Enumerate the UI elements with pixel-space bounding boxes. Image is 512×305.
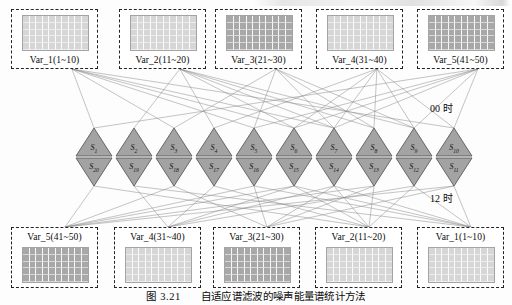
connection-line xyxy=(180,69,374,128)
connection-line xyxy=(369,186,374,227)
variable-box: Var_1(1~10) xyxy=(417,227,504,288)
state-triangle: S13 xyxy=(356,158,392,186)
connection-line xyxy=(377,69,454,128)
state-index: 8 xyxy=(375,147,378,153)
grid-cell xyxy=(185,275,192,282)
state-triangle: S4 xyxy=(196,128,232,156)
spectrum-energy-grid xyxy=(130,15,197,51)
grid-cell xyxy=(82,262,89,269)
grid-cell xyxy=(386,268,393,275)
connection-line xyxy=(174,69,276,128)
grid-cell xyxy=(185,268,192,275)
state-triangle-label: S19 xyxy=(116,162,152,173)
variable-box-label: Var_3(21~30) xyxy=(216,55,301,65)
connection-line xyxy=(72,69,94,128)
spectrum-energy-grid xyxy=(428,247,495,283)
connection-line xyxy=(65,186,254,227)
state-triangle: S5 xyxy=(236,128,272,156)
grid-cell xyxy=(284,268,291,275)
state-triangle: S12 xyxy=(396,158,432,186)
state-triangle: S1 xyxy=(76,128,112,156)
grid-cell xyxy=(185,255,192,262)
connection-line xyxy=(180,69,414,128)
grid-cell xyxy=(387,16,394,23)
connection-line xyxy=(168,186,334,227)
connection-line xyxy=(134,186,471,227)
state-triangle-label: S17 xyxy=(196,162,232,173)
variable-box-label: Var_5(41~50) xyxy=(12,232,97,242)
grid-cell xyxy=(286,30,293,37)
connection-line xyxy=(276,69,414,128)
state-index: 12 xyxy=(413,167,419,173)
variable-box: Var_5(41~50) xyxy=(417,9,504,69)
grid-cell xyxy=(386,248,393,255)
state-triangle: S2 xyxy=(116,128,152,156)
grid-cell xyxy=(488,30,495,37)
grid-cell xyxy=(82,43,89,50)
state-index: 9 xyxy=(415,147,418,153)
grid-cell xyxy=(488,268,495,275)
grid-cell xyxy=(488,275,495,282)
figure-caption: 图 3.21 自适应谱滤波的噪声能量谱统计方法 xyxy=(0,288,512,303)
state-triangle-label: S13 xyxy=(356,162,392,173)
state-triangle-label: S1 xyxy=(76,143,112,154)
state-triangle: S19 xyxy=(116,158,152,186)
state-triangle-label: S14 xyxy=(316,162,352,173)
state-index: 20 xyxy=(93,167,99,173)
grid-cell xyxy=(488,248,495,255)
connection-line xyxy=(134,69,180,128)
connection-line xyxy=(254,69,478,128)
spectrum-energy-grid xyxy=(224,247,291,283)
state-index: 11 xyxy=(453,167,458,173)
connection-line xyxy=(276,69,374,128)
state-index: 5 xyxy=(255,147,258,153)
connection-line xyxy=(180,69,294,128)
state-triangle-label: S8 xyxy=(356,143,392,154)
state-triangle-label: S4 xyxy=(196,143,232,154)
state-triangle: S16 xyxy=(236,158,272,186)
connection-line xyxy=(369,186,414,227)
connection-line xyxy=(334,69,377,128)
figure-canvas: Var_1(1~10)Var_2(11~20)Var_3(21~30)Var_4… xyxy=(0,0,512,305)
grid-cell xyxy=(82,275,89,282)
connection-line xyxy=(180,69,214,128)
grid-cell xyxy=(387,30,394,37)
grid-cell xyxy=(488,43,495,50)
variable-box-label: Var_3(21~30) xyxy=(214,232,299,242)
variable-box: Var_2(11~20) xyxy=(315,227,402,288)
variable-box: Var_5(41~50) xyxy=(11,227,98,288)
state-triangle-label: S16 xyxy=(236,162,272,173)
hour-label-top: 00 时 xyxy=(430,100,453,115)
grid-cell xyxy=(185,248,192,255)
connection-line xyxy=(374,69,377,128)
connection-line xyxy=(168,186,294,227)
grid-cell xyxy=(190,16,197,23)
grid-cell xyxy=(190,36,197,43)
connection-line xyxy=(168,186,214,227)
grid-cell xyxy=(488,36,495,43)
state-index: 13 xyxy=(373,167,379,173)
grid-cell xyxy=(387,36,394,43)
connection-line xyxy=(214,186,369,227)
grid-cell xyxy=(387,23,394,30)
state-index: 14 xyxy=(333,167,339,173)
connection-line xyxy=(294,186,369,227)
state-triangle: S7 xyxy=(316,128,352,156)
connection-line xyxy=(65,186,294,227)
caption-number: 图 3.21 xyxy=(146,291,181,302)
page-text-sliver xyxy=(252,0,510,6)
state-triangle: S20 xyxy=(76,158,112,186)
hour-label-bottom: 12 时 xyxy=(430,190,453,205)
variable-box-label: Var_2(11~20) xyxy=(316,232,401,242)
state-triangle: S3 xyxy=(156,128,192,156)
spectrum-energy-grid xyxy=(326,247,393,283)
connection-line xyxy=(276,69,334,128)
state-triangle: S14 xyxy=(316,158,352,186)
connection-line xyxy=(294,69,478,128)
grid-cell xyxy=(190,23,197,30)
state-triangle: S17 xyxy=(196,158,232,186)
connection-line xyxy=(294,69,377,128)
connection-line xyxy=(174,186,267,227)
grid-cell xyxy=(386,262,393,269)
state-triangle-label: S11 xyxy=(436,162,472,173)
